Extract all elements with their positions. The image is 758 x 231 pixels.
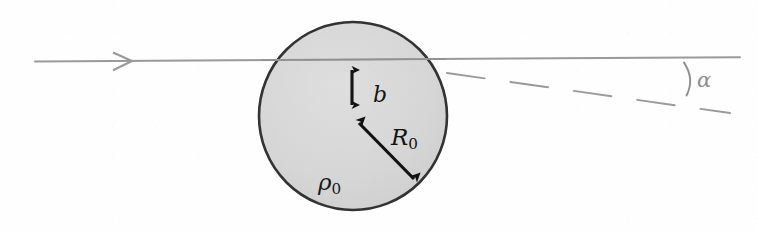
- sphere-outline: [259, 22, 447, 210]
- deflection-angle: [684, 63, 690, 96]
- angle-arc: [684, 63, 690, 96]
- scattering-diagram-figure: b R0 ρ0 α: [0, 0, 758, 231]
- uniform-sphere: [259, 22, 447, 210]
- density-label: ρ0: [318, 171, 341, 197]
- radius-label: R0: [391, 126, 418, 152]
- impact-parameter-label: b: [373, 84, 387, 106]
- angle-label: α: [697, 70, 711, 91]
- diagram-canvas: [0, 0, 758, 231]
